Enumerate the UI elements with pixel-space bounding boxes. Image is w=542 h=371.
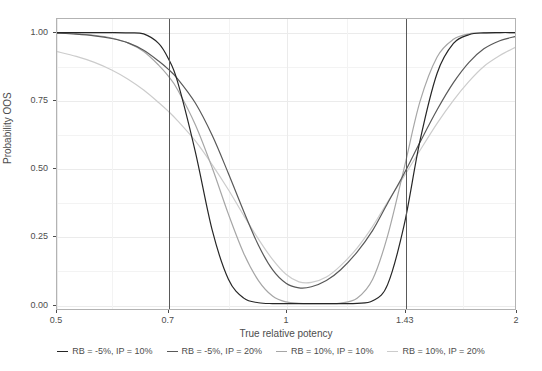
x-tick-mark: [168, 310, 169, 313]
x-tick-mark: [405, 310, 406, 313]
x-tick-label: 1.43: [396, 315, 414, 325]
x-tick-label: 0.5: [50, 315, 63, 325]
legend-line-swatch: [387, 351, 398, 352]
legend-item-label: RB = -5%, IP = 10%: [72, 346, 152, 357]
plot-panel-wrapper: [56, 18, 516, 310]
plot-panel: [56, 18, 516, 310]
y-tick-label: 0.75: [4, 95, 48, 105]
y-tick-label: 0.25: [4, 231, 48, 241]
vertical-reference-line: [169, 19, 170, 309]
legend-line-swatch: [57, 351, 68, 352]
x-tick-label: 2: [513, 315, 518, 325]
curve-series: [57, 33, 515, 288]
legend-item-label: RB = 10%, IP = 20%: [402, 346, 484, 357]
legend-item: RB = 10%, IP = 10%: [276, 346, 373, 357]
curve-layer: [57, 19, 515, 309]
legend-line-swatch: [276, 351, 287, 352]
curve-series: [57, 47, 515, 283]
y-tick-label: 0.00: [4, 300, 48, 310]
chart-figure: Probability OOS 0.000.250.500.751.00 0.5…: [0, 0, 542, 371]
x-axis-title: True relative potency: [56, 328, 516, 339]
x-tick-label: 0.7: [161, 315, 174, 325]
curve-series: [57, 33, 515, 304]
legend-item: RB = -5%, IP = 20%: [167, 346, 262, 357]
y-tick-label: 1.00: [4, 27, 48, 37]
x-tick-label: 1: [283, 315, 288, 325]
legend-item: RB = 10%, IP = 20%: [387, 346, 484, 357]
legend-item-label: RB = -5%, IP = 20%: [182, 346, 262, 357]
x-tick-mark: [286, 310, 287, 313]
x-tick-mark: [56, 310, 57, 313]
legend-item: RB = -5%, IP = 10%: [57, 346, 152, 357]
curve-series: [57, 33, 515, 304]
x-tick-mark: [516, 310, 517, 313]
vertical-reference-line: [406, 19, 407, 309]
legend-line-swatch: [167, 351, 178, 352]
y-tick-label: 0.50: [4, 163, 48, 173]
legend-item-label: RB = 10%, IP = 10%: [291, 346, 373, 357]
chart-legend: RB = -5%, IP = 10%RB = -5%, IP = 20%RB =…: [0, 346, 542, 357]
